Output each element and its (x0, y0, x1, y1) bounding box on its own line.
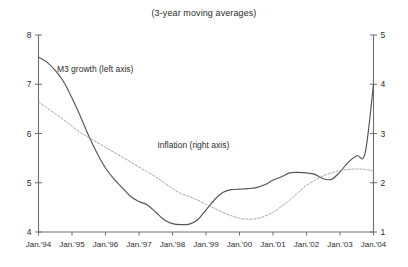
series-label-inflation: Inflation (right axis) (157, 140, 229, 150)
x-axis-tick-label: Jan.'04 (361, 240, 387, 249)
x-axis-tick-label: Jan.'96 (93, 240, 119, 249)
left-axis-tick-label: 8 (27, 30, 32, 40)
x-axis-tick-label: Jan.'97 (126, 240, 152, 249)
right-axis-tick-label: 2 (381, 178, 386, 188)
chart-plot-area: 8765454321Jan.'94Jan.'95Jan.'96Jan.'97Ja… (0, 0, 408, 267)
left-axis-tick-label: 6 (27, 129, 32, 139)
right-axis-tick-label: 5 (381, 30, 386, 40)
right-axis-tick-label: 3 (381, 129, 386, 139)
right-axis-tick-label: 1 (381, 227, 386, 237)
x-axis-tick-label: Jan.'99 (193, 240, 219, 249)
x-axis-tick-label: Jan.'94 (26, 240, 52, 249)
right-axis-tick-label: 4 (381, 79, 386, 89)
x-axis-tick-label: Jan.'03 (327, 240, 353, 249)
x-axis-tick-label: Jan.'00 (227, 240, 253, 249)
series-label-m3-growth: M3 growth (left axis) (57, 64, 134, 74)
x-axis-tick-label: Jan.'98 (160, 240, 186, 249)
left-axis-tick-label: 4 (27, 227, 32, 237)
x-axis-tick-label: Jan.'95 (59, 240, 85, 249)
series-line-inflation (39, 101, 374, 219)
x-axis-tick-label: Jan.'02 (294, 240, 320, 249)
chart-container: (3-year moving averages) 8765454321Jan.'… (0, 0, 408, 267)
left-axis-tick-label: 5 (27, 178, 32, 188)
x-axis-tick-label: Jan.'01 (260, 240, 286, 249)
left-axis-tick-label: 7 (27, 79, 32, 89)
